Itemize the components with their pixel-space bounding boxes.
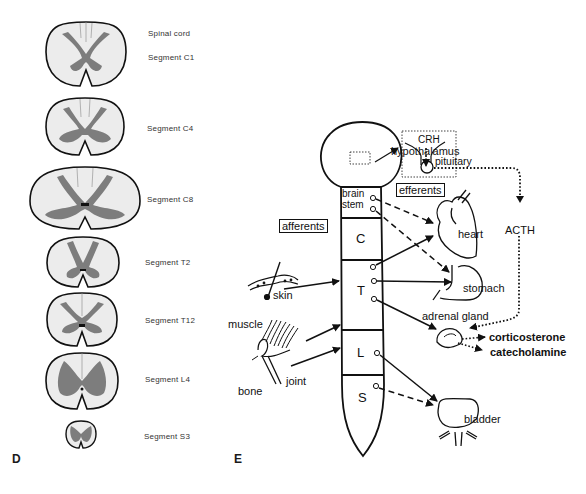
hypothalamus-locator-box bbox=[350, 152, 370, 164]
thoracic-label: T bbox=[357, 283, 365, 298]
afferents-box: afferents bbox=[279, 219, 328, 233]
skin-label: skin bbox=[273, 289, 293, 301]
adrenal-gland-icon bbox=[437, 329, 462, 348]
brainstem-label-line2: stem bbox=[342, 199, 364, 210]
efferent-arrows bbox=[376, 199, 451, 405]
joint-label: joint bbox=[286, 375, 306, 387]
catecholamine-label: catecholamine bbox=[490, 346, 566, 358]
efferents-box: efferents bbox=[396, 183, 445, 197]
brainstem-label-line1: brain bbox=[342, 188, 364, 199]
neuron-terminals bbox=[370, 195, 379, 388]
sacral-label: S bbox=[358, 390, 367, 405]
panel-label-e: E bbox=[234, 452, 242, 466]
cervical-label: C bbox=[356, 231, 365, 246]
pituitary-label: pituitary bbox=[435, 155, 472, 167]
heart-icon bbox=[437, 190, 477, 258]
bone-label: bone bbox=[238, 385, 262, 397]
acth-label: ACTH bbox=[505, 224, 535, 236]
pituitary-icon bbox=[421, 161, 433, 173]
adrenal-gland-label: adrenal gland bbox=[422, 310, 489, 322]
stomach-label: stomach bbox=[463, 282, 505, 294]
bladder-label: bladder bbox=[464, 413, 501, 425]
lumbar-label: L bbox=[357, 345, 364, 360]
muscle-label: muscle bbox=[228, 318, 263, 330]
crh-label: CRH bbox=[418, 134, 440, 145]
heart-label: heart bbox=[458, 228, 483, 240]
corticosterone-label: corticosterone bbox=[489, 331, 565, 343]
